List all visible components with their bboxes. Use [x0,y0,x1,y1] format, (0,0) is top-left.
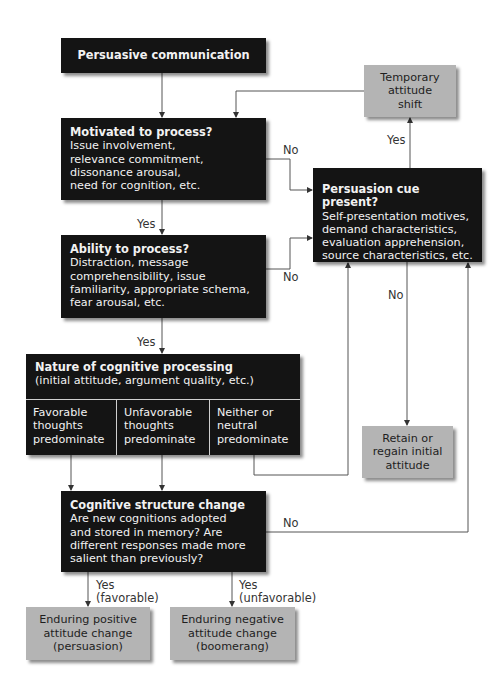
column-neither: Neither or neutral predominate [210,400,300,455]
positive-line: attitude change [39,627,137,641]
cognitive-line: salient than previously? [70,552,257,565]
motivated-line: relevance commitment, [70,153,257,166]
retain-line: Retain or [373,432,443,446]
persuasive-communication-box: Persuasive communication [61,38,266,73]
column-line: thoughts [33,419,109,432]
label-yes-unfavorable: Yes (unfavorable) [239,579,316,605]
cognitive-line: Are new cognitions adopted [70,512,257,525]
ability-line: comprehensibility, issue [70,270,257,283]
start-title: Persuasive communication [77,49,249,62]
cue-title: Persuasion cue present? [322,183,474,210]
positive-line: Enduring positive [39,613,137,627]
ability-line: familiarity, appropriate schema, [70,283,257,296]
label-yes-cue: Yes [387,134,405,147]
enduring-negative-box: Enduring negative attitude change (boome… [170,607,295,660]
temporary-line: attitude [380,84,439,98]
motivated-title: Motivated to process? [70,126,257,139]
temporary-line: Temporary [380,71,439,85]
motivated-line: need for cognition, etc. [70,179,257,192]
retain-line: attitude [373,459,443,473]
negative-line: attitude change [181,627,284,641]
nature-subtitle: (initial attitude, argument quality, etc… [35,374,291,387]
column-line: predominate [124,433,202,446]
cognitive-structure-change-box: Cognitive structure change Are new cogni… [61,491,266,572]
cue-line: Self-presentation motives, [322,210,474,223]
column-favorable: Favorable thoughts predominate [26,400,117,455]
nature-title: Nature of cognitive processing [35,361,291,374]
motivated-line: Issue involvement, [70,139,257,152]
column-unfavorable: Unfavorable thoughts predominate [117,400,210,455]
ability-line: fear arousal, etc. [70,296,257,309]
negative-line: (boomerang) [181,640,284,654]
cue-line: evaluation apprehension, [322,236,474,249]
label-no-motivated: No [283,144,299,157]
column-line: Neither or [217,406,293,419]
enduring-positive-box: Enduring positive attitude change (persu… [26,607,150,660]
label-yes-ability: Yes [137,336,155,349]
column-line: predominate [33,433,109,446]
cue-line: source characteristics, etc. [322,249,474,262]
label-yes-motivated: Yes [137,218,155,231]
column-line: thoughts [124,419,202,432]
negative-line: Enduring negative [181,613,284,627]
label-no-ability: No [283,271,299,284]
label-line: (unfavorable) [239,592,316,605]
column-line: Unfavorable [124,406,202,419]
column-line: Favorable [33,406,109,419]
motivated-to-process-box: Motivated to process? Issue involvement,… [61,118,266,200]
column-line: predominate [217,433,293,446]
cue-line: demand characteristics, [322,223,474,236]
cognitive-line: different responses made more [70,539,257,552]
positive-line: (persuasion) [39,640,137,654]
label-yes-favorable: Yes (favorable) [96,579,159,605]
label-no-cognitive: No [283,517,299,530]
ability-to-process-box: Ability to process? Distraction, message… [61,235,266,318]
cognitive-title: Cognitive structure change [70,499,257,512]
persuasion-cue-box: Persuasion cue present? Self-presentatio… [313,168,482,262]
nature-of-processing-box: Nature of cognitive processing (initial … [26,354,300,455]
ability-title: Ability to process? [70,243,257,256]
label-line: (favorable) [96,592,159,605]
retain-line: regain initial [373,445,443,459]
retain-initial-attitude-box: Retain or regain initial attitude [362,426,453,478]
ability-line: Distraction, message [70,256,257,269]
temporary-attitude-shift-box: Temporary attitude shift [364,65,456,117]
temporary-line: shift [380,98,439,112]
column-line: neutral [217,419,293,432]
motivated-line: dissonance arousal, [70,166,257,179]
cognitive-line: and stored in memory? Are [70,526,257,539]
label-no-cue: No [388,289,404,302]
